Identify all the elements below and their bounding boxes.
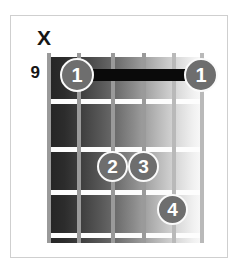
finger-dot-4-string-5: 4 (157, 194, 188, 225)
finger-dot-3-string-4: 3 (128, 151, 159, 182)
fret-line-3 (47, 190, 204, 195)
string-line-1 (47, 53, 51, 243)
starting-fret-label: 9 (20, 62, 40, 84)
finger-dot-1-string-6: 1 (184, 58, 218, 92)
string-line-3 (111, 53, 115, 243)
fret-line-1 (47, 99, 204, 104)
fret-line-2 (47, 147, 204, 152)
string-line-4 (142, 53, 146, 243)
chord-diagram-screenshot: X 9 1 1 2 3 4 (0, 0, 241, 272)
barre-bar-finger-1 (86, 69, 199, 81)
fret-line-4 (47, 233, 204, 238)
finger-dot-2-string-3: 2 (97, 151, 128, 182)
mute-marker-string-1: X (33, 26, 55, 50)
finger-dot-1-string-2: 1 (60, 58, 94, 92)
